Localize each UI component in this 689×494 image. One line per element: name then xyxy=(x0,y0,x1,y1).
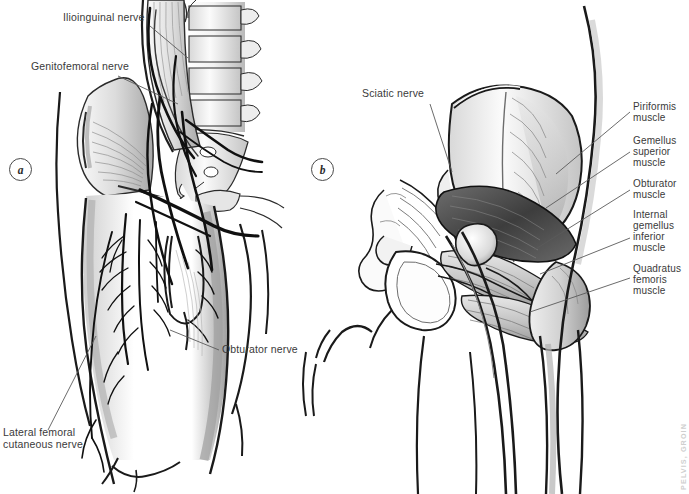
anatomy-artwork xyxy=(0,0,689,494)
label-internal-gemellus-inferior-muscle-line3: inferior xyxy=(633,231,665,243)
panel-marker-a: a xyxy=(9,158,32,181)
label-quadratus-femoris-muscle-line3: muscle xyxy=(633,285,666,297)
label-gemellus-superior-muscle-line3: muscle xyxy=(633,157,666,169)
label-internal-gemellus-inferior-muscle-line1: Internal xyxy=(633,209,668,221)
label-ilioinguinal-nerve: Ilioinguinal nerve xyxy=(63,12,145,24)
page-watermark: PELVIS, GROIN xyxy=(679,423,688,490)
label-obturator-nerve: Obturator nerve xyxy=(222,344,298,356)
panel-marker-b: b xyxy=(311,158,334,181)
anatomy-figure: a b Ilioinguinal nerve Genitofemoral ner… xyxy=(0,0,689,494)
label-obturator-muscle-line1: Obturator xyxy=(633,178,677,190)
label-gemellus-superior-muscle-line2: superior xyxy=(633,146,670,158)
label-gemellus-superior-muscle-line1: Gemellus xyxy=(633,135,676,147)
label-lateral-femoral-cutaneous-nerve-line2: cutaneous nerve xyxy=(3,439,83,451)
label-lateral-femoral-cutaneous-nerve-line1: Lateral femoral xyxy=(3,427,75,439)
label-internal-gemellus-inferior-muscle-line4: muscle xyxy=(633,242,666,254)
label-quadratus-femoris-muscle-line1: Quadratus xyxy=(633,263,681,275)
label-piriformis-muscle-line1: Piriformis xyxy=(633,101,676,113)
ilium-and-iliacus xyxy=(77,78,153,196)
label-internal-gemellus-inferior-muscle-line2: gemellus xyxy=(633,220,674,232)
label-sciatic-nerve: Sciatic nerve xyxy=(362,88,424,100)
label-obturator-muscle-line2: muscle xyxy=(633,189,666,201)
label-piriformis-muscle-line2: muscle xyxy=(633,112,666,124)
label-quadratus-femoris-muscle-line2: femoris xyxy=(633,274,667,286)
label-genitofemoral-nerve: Genitofemoral nerve xyxy=(31,61,129,73)
